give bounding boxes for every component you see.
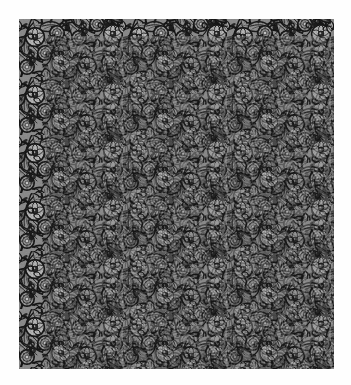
pattern-shading — [19, 19, 334, 369]
textile-pattern-graphic — [19, 19, 334, 369]
page-canvas — [0, 0, 351, 385]
floral-damask-textile-swatch — [19, 19, 334, 369]
